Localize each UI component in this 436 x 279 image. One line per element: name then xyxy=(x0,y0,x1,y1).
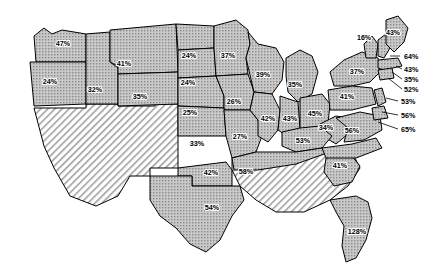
callout-label-md: 65% xyxy=(401,125,416,134)
state-label-fl: 128% xyxy=(348,227,367,236)
state-label-ks: 33% xyxy=(190,139,205,148)
state-label-wv: 34% xyxy=(319,123,334,132)
leader-line-nj xyxy=(386,98,398,101)
state-mn xyxy=(214,20,250,76)
callout-label-ri: 35% xyxy=(404,75,419,84)
state-nd xyxy=(176,24,214,50)
state-label-ky: 53% xyxy=(296,136,311,145)
state-label-me: 43% xyxy=(386,29,401,36)
state-label-mi: 35% xyxy=(288,80,303,89)
state-label-mt: 41% xyxy=(117,59,132,68)
state-label-tn: 58% xyxy=(239,167,254,176)
state-label-ia: 26% xyxy=(227,97,242,106)
state-label-vt: 16% xyxy=(357,34,372,41)
callout-label-nj: 53% xyxy=(401,97,416,106)
state-label-oh: 45% xyxy=(308,109,323,118)
callout-value-labels: 64% 43% 35% 52% 53% 56% 65% xyxy=(401,52,419,134)
state-label-il: 42% xyxy=(261,114,276,123)
state-label-sd: 24% xyxy=(181,78,196,87)
state-wy xyxy=(118,72,178,106)
map-svg: 47% 47% 24% 24% 32% 32% 41% 41% 35% 35% … xyxy=(0,0,436,279)
state-label-mn: 37% xyxy=(221,51,236,60)
state-label-wi: 39% xyxy=(256,70,271,79)
state-label-sc: 41% xyxy=(333,161,348,170)
state-label-or: 24% xyxy=(43,77,58,86)
callout-label-ma: 43% xyxy=(404,65,419,74)
state-tx xyxy=(150,176,244,252)
state-label-va: 56% xyxy=(345,126,360,135)
state-label-ny: 37% xyxy=(350,67,365,76)
state-label-tx: 54% xyxy=(205,203,220,212)
state-ct xyxy=(378,68,394,80)
state-label-in: 43% xyxy=(283,114,298,123)
state-label-mo: 27% xyxy=(233,132,248,141)
callout-label-nh: 64% xyxy=(404,52,419,61)
state-label-ne: 25% xyxy=(183,108,198,117)
state-label-ok: 42% xyxy=(204,168,219,177)
us-choropleth-map: 47% 47% 24% 24% 32% 32% 41% 41% 35% 35% … xyxy=(0,0,436,279)
state-label-wy: 35% xyxy=(133,92,148,101)
state-label-nd: 24% xyxy=(182,51,197,60)
state-or xyxy=(30,62,86,106)
leader-line-ct xyxy=(388,78,402,89)
state-label-wa: 47% xyxy=(56,39,71,48)
state-label-pa: 41% xyxy=(340,92,355,101)
state-label-id: 32% xyxy=(88,85,103,94)
state-mi xyxy=(286,50,318,102)
callout-label-ct: 52% xyxy=(404,85,419,94)
callout-label-de: 56% xyxy=(401,111,416,120)
